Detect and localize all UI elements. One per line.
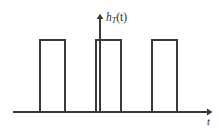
pulse-rect-1 xyxy=(40,40,65,112)
arrow-up-icon xyxy=(97,14,104,19)
y-axis-label: hT(t) xyxy=(106,12,127,25)
figure-container: hT(t) t xyxy=(0,0,222,137)
pulse-rect-3 xyxy=(152,40,177,112)
x-axis-label: t xyxy=(207,117,210,128)
y-axis-label-argument: (t) xyxy=(116,11,127,23)
arrow-right-icon xyxy=(207,109,213,116)
